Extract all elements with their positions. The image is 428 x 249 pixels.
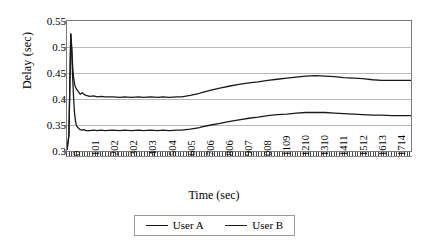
legend-label: User A — [173, 220, 204, 231]
x-axis-title: Time (sec) — [0, 188, 428, 203]
x-tick-label: 1210 — [300, 110, 311, 156]
x-tick-label: 1714 — [396, 110, 407, 156]
x-tick-label: 1613 — [377, 110, 388, 156]
legend-line-icon — [225, 225, 247, 226]
legend-line-icon — [146, 225, 168, 226]
x-tick-label: 1411 — [338, 110, 349, 156]
x-tick-label: 403 — [147, 110, 158, 156]
legend-item-user-a: User A — [146, 220, 204, 231]
delay-vs-time-chart: Delay (sec) 0.30.350.40.450.50.55 010120… — [0, 0, 428, 249]
x-tick-label: 504 — [167, 110, 178, 156]
x-tick-label: 605 — [186, 110, 197, 156]
x-tick-label: 302 — [128, 110, 139, 156]
x-tick-label: 1512 — [358, 110, 369, 156]
x-tick-label: 202 — [109, 110, 120, 156]
x-tick-label: 806 — [224, 110, 235, 156]
x-tick-label: 008 — [262, 110, 273, 156]
x-tick-label: 706 — [205, 110, 216, 156]
x-tick-label: 0 — [71, 110, 82, 156]
x-tick-label: 1310 — [319, 110, 330, 156]
legend-label: User B — [252, 220, 283, 231]
legend-item-user-b: User B — [225, 220, 283, 231]
chart-legend: User A User B — [134, 215, 295, 236]
x-axis-tick-labels: 0101202302403504605706806907008110912101… — [0, 0, 428, 249]
x-tick-label: 1109 — [281, 110, 292, 156]
x-tick-label: 101 — [90, 110, 101, 156]
x-tick-label: 907 — [243, 110, 254, 156]
